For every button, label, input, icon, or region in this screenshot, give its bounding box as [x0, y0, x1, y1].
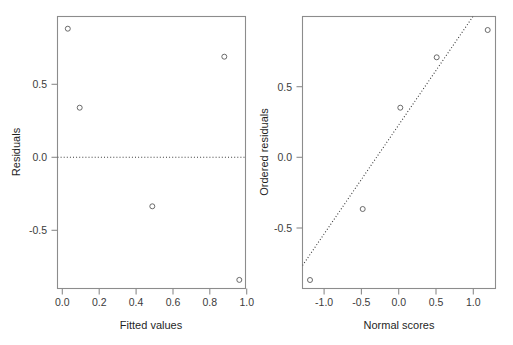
right-ytick-label-1: 0.0 [277, 151, 292, 163]
right-qq-reference-line [303, 12, 477, 266]
left-data-points [65, 26, 242, 282]
right-xtick-label-3: 0.5 [429, 296, 444, 308]
data-point [150, 204, 155, 209]
right-xtick-label-0: -1.0 [315, 296, 333, 308]
data-point [398, 105, 403, 110]
right-plot-box [303, 17, 496, 289]
right-x-axis-ticks [324, 289, 473, 295]
left-xtick-label-2: 0.4 [129, 296, 144, 308]
right-ytick-label-2: -0.5 [274, 222, 292, 234]
right-data-points [308, 28, 491, 283]
left-ytick-label-1: 0.0 [32, 151, 47, 163]
right-ytick-label-0: 0.5 [277, 81, 292, 93]
right-xtick-label-2: 0.0 [391, 296, 406, 308]
left-panel-residuals-vs-fitted: 0.0 0.2 0.4 0.6 0.8 1.0 0.5 0.0 -0.5 Fit… [10, 17, 254, 332]
data-point [65, 26, 70, 31]
residual-diagnostics-figure: 0.0 0.2 0.4 0.6 0.8 1.0 0.5 0.0 -0.5 Fit… [0, 0, 513, 345]
left-xtick-label-4: 0.8 [202, 296, 217, 308]
data-point [77, 105, 82, 110]
left-xtick-label-1: 0.2 [92, 296, 107, 308]
data-point [222, 54, 227, 59]
left-x-axis-title: Fitted values [120, 319, 183, 331]
plot-canvas: 0.0 0.2 0.4 0.6 0.8 1.0 0.5 0.0 -0.5 Fit… [0, 0, 513, 345]
right-y-axis-title: Ordered residuals [258, 108, 270, 196]
left-plot-box [58, 17, 246, 289]
data-point [434, 55, 439, 60]
data-point [308, 278, 313, 283]
right-y-axis-ticks [297, 87, 303, 228]
right-panel-normal-qq-plot: -1.0 -0.5 0.0 0.5 1.0 0.5 0.0 -0.5 Norma… [258, 12, 496, 331]
right-x-axis-title: Normal scores [364, 319, 435, 331]
data-point [360, 207, 365, 212]
data-point [485, 28, 490, 33]
left-x-axis-ticks [62, 289, 246, 295]
data-point [237, 277, 242, 282]
left-ytick-label-2: -0.5 [29, 224, 47, 236]
right-xtick-label-4: 1.0 [466, 296, 481, 308]
left-xtick-label-0: 0.0 [55, 296, 70, 308]
left-xtick-label-3: 0.6 [166, 296, 181, 308]
left-xtick-label-5: 1.0 [239, 296, 254, 308]
right-xtick-label-1: -0.5 [352, 296, 370, 308]
left-ytick-label-0: 0.5 [32, 78, 47, 90]
left-y-axis-ticks [52, 84, 58, 230]
left-y-axis-title: Residuals [10, 127, 22, 176]
